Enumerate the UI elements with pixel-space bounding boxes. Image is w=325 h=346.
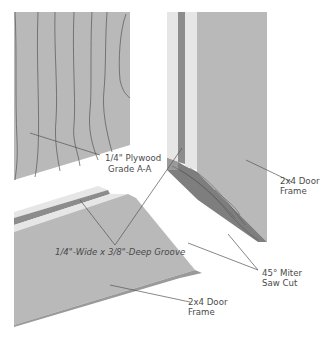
svg-text:2x4 Door: 2x4 Door xyxy=(280,176,320,186)
svg-text:45° Miter: 45° Miter xyxy=(262,268,302,278)
label-plywood: 1/4" Plywood Grade A-A xyxy=(105,153,161,174)
svg-text:Frame: Frame xyxy=(188,307,215,317)
svg-text:1/4"-Wide x 3/8"-Deep Groove: 1/4"-Wide x 3/8"-Deep Groove xyxy=(55,247,185,257)
door-frame-assembly-diagram: 1/4" Plywood Grade A-A 2x4 Door Frame 1/… xyxy=(0,0,325,346)
label-door-frame-horizontal: 2x4 Door Frame xyxy=(188,297,228,317)
vertical-door-frame xyxy=(167,12,267,242)
label-door-frame-vertical: 2x4 Door Frame xyxy=(280,176,320,196)
svg-text:Grade A-A: Grade A-A xyxy=(108,164,152,174)
svg-text:Frame: Frame xyxy=(280,186,307,196)
svg-text:2x4 Door: 2x4 Door xyxy=(188,297,228,307)
label-miter-cut: 45° Miter Saw Cut xyxy=(262,268,302,288)
label-groove: 1/4"-Wide x 3/8"-Deep Groove xyxy=(55,247,185,257)
svg-text:Saw Cut: Saw Cut xyxy=(262,278,298,288)
svg-text:1/4" Plywood: 1/4" Plywood xyxy=(105,153,161,163)
